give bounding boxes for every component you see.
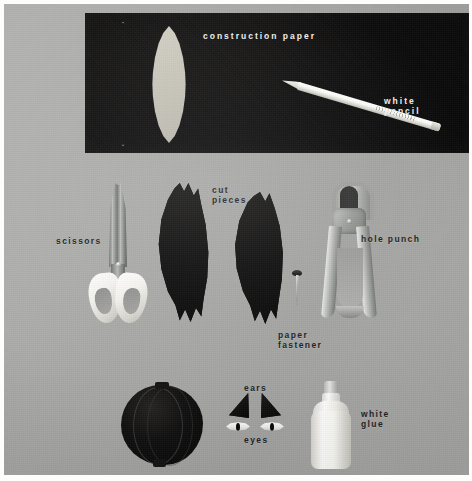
label-white-glue: white glue [361,410,390,429]
fastener-prong [297,275,300,301]
craft-materials-photo: construction paper white pencil scissors… [4,4,469,475]
eye-right-cutout [260,422,284,431]
hole-punch-spring [336,306,364,318]
label-eyes: eyes [244,436,269,446]
eye-pupil [236,423,240,431]
scissors-pivot-screw [116,262,121,267]
glue-body [311,411,351,469]
construction-paper: construction paper white pencil [85,13,469,153]
label-paper-fastener: paper fastener [278,331,322,350]
paper-ball-segment [147,386,193,466]
cut-piece [233,192,285,324]
paper-ball [121,385,203,465]
label-white-pencil: white pencil [384,97,421,116]
label-scissors: scissors [56,237,102,247]
eye-pupil [270,423,274,431]
photo-frame: construction paper white pencil scissors… [0,0,472,481]
paper-ball-top-tab [155,382,169,389]
hole-punch [320,182,380,318]
paper-ball-bottom-tab [153,459,166,467]
scissors-blade-right [117,183,127,267]
hole-punch-arm-gap [337,248,363,308]
ear-left-cutout [229,393,249,419]
scissors [89,180,147,322]
label-ears: ears [244,384,267,394]
paper-fastener [292,270,302,306]
hole-punch-rivet [347,219,352,224]
label-hole-punch: hole punch [361,235,420,245]
cut-piece [156,183,210,322]
label-construction-paper: construction paper [203,32,316,42]
eye-left-cutout [226,422,250,431]
white-glue-bottle [309,381,353,469]
ear-right-cutout [261,393,281,419]
label-cut-pieces: cut pieces [212,186,247,205]
